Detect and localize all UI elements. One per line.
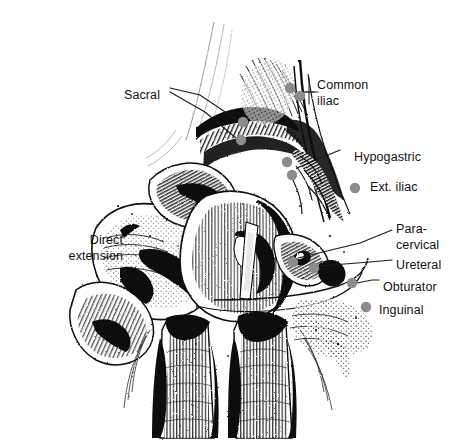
label-hypogastric: Hypogastric — [354, 150, 421, 166]
node-obturator[interactable] — [347, 278, 357, 288]
anatomical-figure: · ·· · — [0, 0, 459, 441]
node-hypogastric-2[interactable] — [287, 170, 297, 180]
leader-obturator — [357, 280, 379, 283]
node-common-iliac-1[interactable] — [285, 83, 295, 93]
node-common-iliac-2[interactable] — [295, 91, 305, 101]
label-obturator-line-0: Obturator — [383, 280, 437, 296]
label-ext-iliac: Ext. iliac — [370, 180, 418, 196]
node-paracervical[interactable] — [288, 257, 298, 267]
label-sacral: Sacral — [124, 88, 160, 104]
node-sacral-lower[interactable] — [236, 135, 246, 145]
label-direct-extension-line-1: extension — [17, 249, 123, 265]
label-ureteral-line-0: Ureteral — [396, 258, 441, 274]
leader-ureteral — [319, 260, 392, 266]
label-inguinal-line-0: Inguinal — [379, 303, 424, 319]
leader-hypogastric — [297, 150, 340, 168]
label-obturator: Obturator — [383, 280, 437, 296]
label-inguinal: Inguinal — [379, 303, 424, 319]
label-sacral-line-0: Sacral — [124, 88, 160, 104]
label-para-cervical-line-0: Para- — [396, 222, 439, 238]
label-ext-iliac-line-0: Ext. iliac — [370, 180, 418, 196]
node-ureteral[interactable] — [309, 263, 319, 273]
label-direct-extension: Directextension — [17, 233, 123, 264]
label-direct-extension-line-0: Direct — [17, 233, 123, 249]
label-para-cervical-line-1: cervical — [396, 238, 439, 254]
leader-sacral-a — [170, 88, 237, 120]
node-inguinal[interactable] — [361, 302, 371, 312]
node-sacral-upper[interactable] — [238, 117, 248, 127]
label-para-cervical: Para-cervical — [396, 222, 439, 253]
lymph-node-markers[interactable] — [236, 83, 371, 312]
label-hypogastric-line-0: Hypogastric — [354, 150, 421, 166]
node-hypogastric-1[interactable] — [282, 157, 292, 167]
label-common-iliac-line-0: Common — [317, 78, 368, 94]
node-ext-iliac[interactable] — [350, 183, 360, 193]
label-common-iliac-line-1: iliac — [317, 94, 368, 110]
annotation-overlay — [0, 0, 459, 441]
leader-sacral-b — [170, 92, 236, 138]
label-common-iliac: Commoniliac — [317, 78, 368, 109]
leader-paracervical — [298, 230, 392, 258]
label-ureteral: Ureteral — [396, 258, 441, 274]
